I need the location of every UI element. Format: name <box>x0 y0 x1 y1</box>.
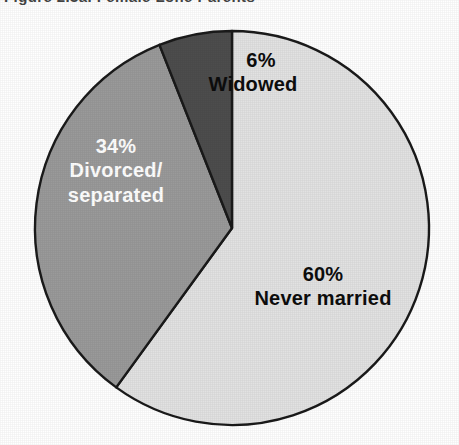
pie-chart-svg <box>0 0 459 445</box>
pie-chart: 6% Widowed 34% Divorced/ separated 60% N… <box>0 0 459 445</box>
